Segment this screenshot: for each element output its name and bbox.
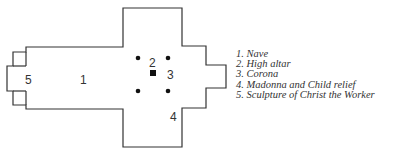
legend: 1. Nave 2. High altar 3. Corona 4. Madon… — [236, 49, 375, 100]
church-outline — [7, 8, 226, 147]
column-marker — [136, 89, 141, 94]
column-marker — [166, 89, 171, 94]
column-marker — [136, 56, 141, 61]
legend-item: 5. Sculpture of Christ the Worker — [236, 90, 375, 100]
label-5: 5 — [25, 73, 32, 87]
label-1: 1 — [80, 73, 87, 87]
legend-label: Sculpture of Christ the Worker — [247, 89, 375, 100]
column-marker — [166, 56, 171, 61]
label-2: 2 — [149, 56, 156, 70]
legend-number: 5. — [236, 89, 244, 100]
high-altar-marker — [150, 70, 156, 76]
label-3: 3 — [167, 68, 174, 82]
label-4: 4 — [170, 110, 177, 124]
